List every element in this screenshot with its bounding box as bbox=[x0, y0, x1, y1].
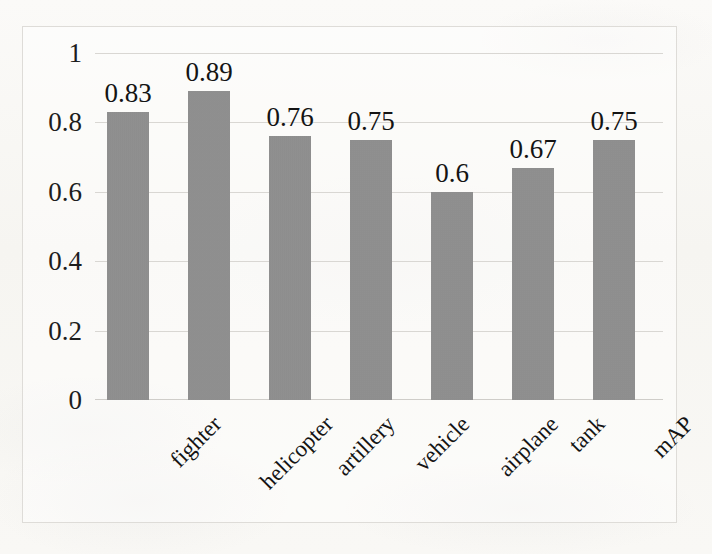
y-axis-tick-label: 0.8 bbox=[48, 109, 82, 136]
bar-fighter[interactable] bbox=[107, 112, 149, 400]
bar-helicopter[interactable] bbox=[188, 91, 230, 400]
y-axis-tick-label: 0.4 bbox=[48, 248, 82, 275]
bar-vehicle[interactable] bbox=[350, 140, 392, 400]
y-axis-tick-label: 1 bbox=[69, 40, 83, 67]
bar-value-label: 0.6 bbox=[435, 160, 469, 187]
bar-value-label: 0.75 bbox=[590, 108, 637, 135]
y-axis-tick-label: 0.6 bbox=[48, 178, 82, 205]
bar-airplane[interactable] bbox=[431, 192, 473, 400]
bar-value-label: 0.83 bbox=[104, 80, 151, 107]
chart-page: 1 0.8 0.6 0.4 0.2 0 0.83 0.89 0.76 0.75 … bbox=[0, 0, 712, 554]
gridline bbox=[95, 53, 663, 54]
bar-tank[interactable] bbox=[512, 168, 554, 400]
y-axis-tick-label: 0 bbox=[69, 387, 83, 414]
bar-artillery[interactable] bbox=[269, 136, 311, 400]
bar-value-label: 0.67 bbox=[509, 136, 556, 163]
y-axis-tick-labels: 1 0.8 0.6 0.4 0.2 0 bbox=[18, 53, 82, 400]
bar-value-label: 0.89 bbox=[185, 59, 232, 86]
bar-value-label: 0.75 bbox=[347, 108, 394, 135]
plot-area: 0.83 0.89 0.76 0.75 0.6 0.67 0.75 bbox=[95, 53, 663, 400]
bar-value-label: 0.76 bbox=[266, 104, 313, 131]
bar-mAP[interactable] bbox=[593, 140, 635, 400]
y-axis-tick-label: 0.2 bbox=[48, 317, 82, 344]
